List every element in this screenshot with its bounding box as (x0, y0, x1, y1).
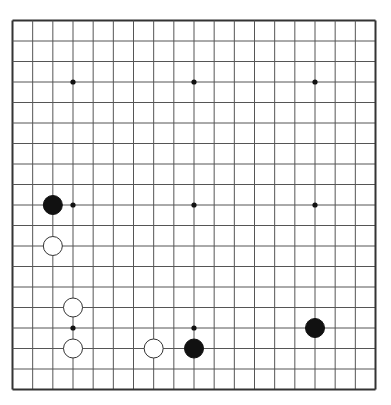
star-point (312, 202, 317, 207)
stones-layer (43, 196, 324, 359)
star-point (70, 325, 75, 330)
star-point (191, 325, 196, 330)
black-stone (43, 196, 62, 215)
black-stone (185, 339, 204, 358)
star-point (70, 202, 75, 207)
go-board[interactable] (0, 0, 391, 405)
star-point (191, 79, 196, 84)
star-point (70, 79, 75, 84)
white-stone (43, 237, 62, 256)
star-point (191, 202, 196, 207)
black-stone (306, 319, 325, 338)
white-stone (144, 339, 163, 358)
star-point (312, 79, 317, 84)
white-stone (64, 339, 83, 358)
white-stone (64, 298, 83, 317)
